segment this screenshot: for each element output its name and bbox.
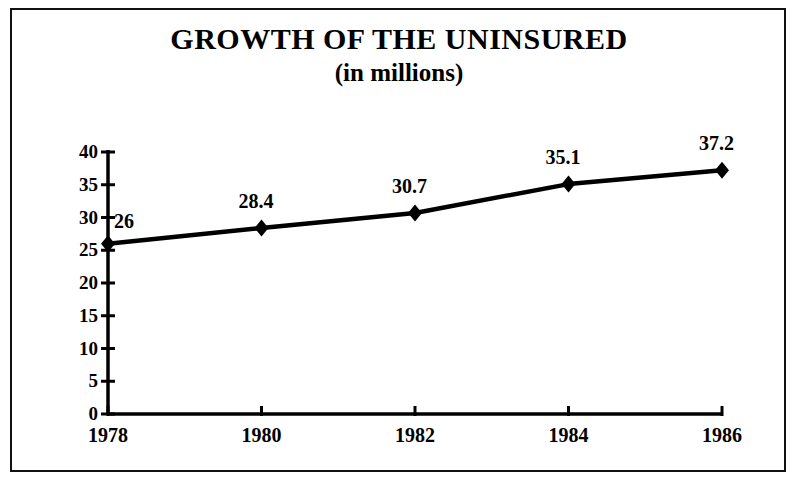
point-label-0: 26 bbox=[114, 211, 134, 231]
x-tick-label-4: 1986 bbox=[682, 425, 762, 445]
y-tick-label-2: 10 bbox=[56, 339, 98, 358]
data-point-marker-2[interactable] bbox=[408, 204, 422, 221]
y-tick-label-3: 15 bbox=[56, 306, 98, 325]
chart-figure: GROWTH OF THE UNINSURED (in millions) 05… bbox=[0, 0, 798, 478]
point-label-3: 35.1 bbox=[546, 147, 581, 167]
y-tick-label-6: 30 bbox=[56, 208, 98, 227]
data-point-marker-3[interactable] bbox=[562, 176, 576, 193]
x-tick-label-1: 1980 bbox=[222, 425, 302, 445]
point-label-1: 28.4 bbox=[239, 191, 274, 211]
y-tick-label-7: 35 bbox=[56, 175, 98, 194]
data-point-marker-1[interactable] bbox=[255, 219, 269, 236]
data-point-marker-4[interactable] bbox=[715, 162, 729, 179]
y-tick-label-5: 25 bbox=[56, 240, 98, 259]
point-label-2: 30.7 bbox=[392, 176, 427, 196]
point-label-4: 37.2 bbox=[699, 133, 734, 153]
x-tick-label-0: 1978 bbox=[68, 425, 148, 445]
y-tick-label-4: 20 bbox=[56, 273, 98, 292]
line-chart-svg bbox=[0, 0, 798, 478]
x-tick-label-2: 1982 bbox=[375, 425, 455, 445]
y-tick-label-0: 0 bbox=[56, 404, 98, 423]
x-tick-label-3: 1984 bbox=[529, 425, 609, 445]
y-tick-label-8: 40 bbox=[56, 142, 98, 161]
plot-area bbox=[0, 0, 798, 478]
y-tick-label-1: 5 bbox=[56, 371, 98, 390]
